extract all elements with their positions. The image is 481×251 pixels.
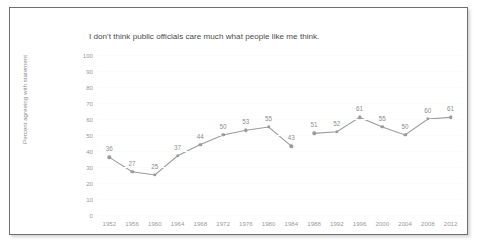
gridline — [98, 151, 462, 152]
data-label: 55 — [265, 115, 272, 122]
x-tick-label: 1984 — [285, 220, 299, 227]
chart-card: I don't think public officials care much… — [9, 7, 468, 235]
data-label: 61 — [447, 105, 454, 112]
gridline — [98, 199, 462, 200]
x-tick-label: 1996 — [353, 220, 367, 227]
x-axis-tick-labels: 1952195619601964196819721976198019841988… — [98, 220, 462, 232]
y-tick-label: 40 — [71, 148, 93, 155]
gridline — [98, 71, 462, 72]
gridline — [98, 183, 462, 184]
data-label: 43 — [288, 134, 295, 141]
gridline — [98, 87, 462, 88]
x-tick-label: 1988 — [307, 220, 321, 227]
gridline — [98, 119, 462, 120]
data-label: 55 — [379, 115, 386, 122]
x-tick-label: 1952 — [103, 220, 117, 227]
y-tick-label: 70 — [71, 100, 93, 107]
y-tick-label: 0 — [71, 212, 93, 219]
x-tick-label: 1960 — [148, 220, 162, 227]
x-tick-label: 1972 — [216, 220, 230, 227]
y-tick-label: 10 — [71, 196, 93, 203]
y-tick-label: 30 — [71, 164, 93, 171]
x-tick-label: 1976 — [239, 220, 253, 227]
data-label: 52 — [333, 120, 340, 127]
data-label: 50 — [402, 123, 409, 130]
x-tick-label: 1992 — [330, 220, 344, 227]
data-label: 25 — [151, 163, 158, 170]
x-tick-label: 2008 — [421, 220, 435, 227]
x-tick-label: 1956 — [125, 220, 139, 227]
data-label: 53 — [242, 118, 249, 125]
chart-title: I don't think public officials care much… — [89, 32, 319, 41]
data-label: 50 — [220, 123, 227, 130]
x-tick-label: 2012 — [444, 220, 458, 227]
y-tick-label: 90 — [71, 68, 93, 75]
gridline — [98, 135, 462, 136]
y-axis-title: Percent agreeing with statement — [21, 41, 28, 159]
gridline — [98, 103, 462, 104]
y-tick-label: 50 — [71, 132, 93, 139]
x-tick-label: 2004 — [398, 220, 412, 227]
y-tick-label: 100 — [71, 52, 93, 59]
y-tick-label: 80 — [71, 84, 93, 91]
gridline — [98, 55, 462, 56]
data-label: 37 — [174, 144, 181, 151]
x-tick-label: 1980 — [262, 220, 276, 227]
gridline — [98, 215, 462, 216]
y-tick-label: 60 — [71, 116, 93, 123]
data-label: 44 — [197, 133, 204, 140]
data-label: 36 — [106, 145, 113, 152]
x-tick-label: 1968 — [194, 220, 208, 227]
y-axis-tick-labels: 0102030405060708090100 — [71, 55, 93, 215]
x-tick-label: 1964 — [171, 220, 185, 227]
x-tick-label: 2000 — [376, 220, 390, 227]
data-label: 61 — [356, 105, 363, 112]
y-tick-label: 20 — [71, 180, 93, 187]
data-label: 51 — [311, 121, 318, 128]
plot-area: 36272537445053554351526155506061 — [98, 55, 462, 215]
data-label: 27 — [129, 160, 136, 167]
data-label: 60 — [424, 107, 431, 114]
